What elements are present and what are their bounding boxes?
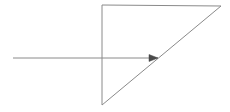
diagram-svg [0,0,230,112]
canvas-background [0,0,230,112]
diagram-canvas [0,0,230,112]
